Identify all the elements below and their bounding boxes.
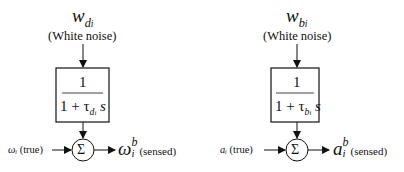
output-sub: i bbox=[131, 148, 134, 159]
noise-subsub: i bbox=[305, 19, 308, 29]
noise-label-right: (White noise) bbox=[263, 30, 331, 43]
tf-numerator-right: 1 bbox=[293, 75, 301, 90]
tf-denominator-left: 1 + τdi s bbox=[60, 99, 106, 117]
tf-den-suffix: s bbox=[96, 98, 106, 114]
output-sub: i bbox=[343, 148, 346, 159]
output-symbol: ω bbox=[118, 138, 131, 159]
output-text: (sensed) bbox=[139, 145, 176, 157]
tf-den-suffix: s bbox=[311, 98, 321, 114]
tf-den-prefix: 1 + τ bbox=[60, 98, 90, 114]
output-symbol: a bbox=[333, 138, 343, 159]
tf-denominator-right: 1 + τbi s bbox=[275, 99, 321, 117]
input-symbol: aᵢ bbox=[220, 144, 227, 155]
noise-symbol-right: wbi bbox=[286, 6, 308, 29]
sum-symbol-left: Σ bbox=[77, 143, 85, 157]
noise-symbol-left: wdi bbox=[72, 6, 94, 29]
input-text: (true) bbox=[20, 144, 43, 155]
sum-symbol-right: Σ bbox=[291, 143, 299, 157]
input-label-left: ωᵢ (true) bbox=[8, 145, 43, 156]
input-symbol: ωᵢ bbox=[8, 144, 17, 155]
input-label-right: aᵢ (true) bbox=[220, 145, 253, 156]
output-label-left: ω b i (sensed) bbox=[118, 139, 176, 158]
noise-label-left: (White noise) bbox=[48, 30, 116, 43]
tf-den-prefix: 1 + τ bbox=[275, 98, 305, 114]
noise-subsub: i bbox=[91, 19, 94, 29]
input-text: (true) bbox=[230, 144, 253, 155]
output-text: (sensed) bbox=[351, 145, 388, 157]
noise-symbol-text: w bbox=[286, 5, 299, 26]
output-label-right: a b i (sensed) bbox=[333, 139, 387, 158]
tf-numerator-left: 1 bbox=[79, 75, 87, 90]
noise-symbol-text: w bbox=[72, 5, 85, 26]
